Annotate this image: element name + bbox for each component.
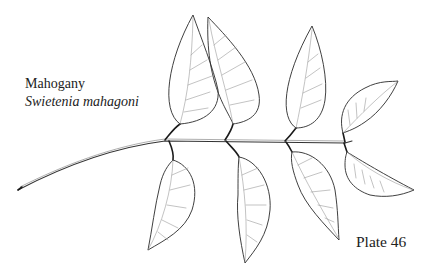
leaflet-lower-3 — [286, 142, 339, 240]
leaflet-lower-4 — [344, 143, 414, 196]
botanical-plate: Mahogany Swietenia mahagoni Plate 46 — [0, 0, 435, 279]
main-stem — [18, 139, 352, 190]
leaflet-upper-3 — [285, 26, 326, 141]
scientific-name-label: Swietenia mahagoni — [25, 94, 139, 110]
leaflet-upper-4 — [341, 81, 398, 142]
leaflet-lower-1 — [148, 141, 195, 250]
leaflet-lower-2 — [226, 141, 270, 263]
leaflet-upper-1 — [165, 15, 218, 140]
plate-number-label: Plate 46 — [356, 233, 406, 251]
common-name-label: Mahogany — [25, 76, 85, 92]
